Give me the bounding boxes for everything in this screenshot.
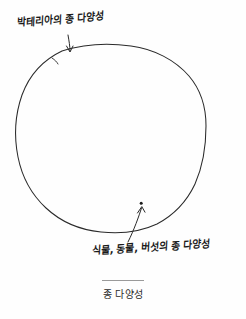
- figure-caption: 종 다양성: [0, 280, 246, 301]
- bacteria-diversity-circle: [16, 44, 206, 232]
- eukaryote-arrow: [128, 207, 145, 242]
- eukaryote-diversity-dot: [140, 202, 143, 205]
- caption-rule: [102, 280, 144, 281]
- species-diversity-diagram: 박테리아의 종 다양성 식물, 동물, 버섯의 종 다양성 종 다양성: [0, 0, 246, 319]
- diagram-canvas: [0, 0, 246, 319]
- circle-stroke-overlap: [52, 58, 58, 64]
- caption-text: 종 다양성: [0, 286, 246, 301]
